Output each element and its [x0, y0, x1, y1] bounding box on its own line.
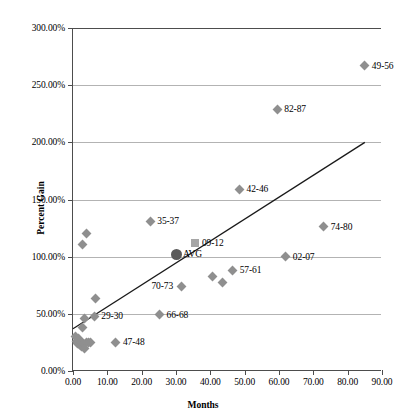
gridline	[73, 142, 381, 143]
data-point-label: AVG	[183, 249, 202, 259]
y-tick-label: 300.00%	[32, 23, 65, 33]
y-tick-label: 0.00%	[41, 366, 65, 376]
y-tick-label: 50.00%	[36, 309, 65, 319]
scatter-chart: Percent Gain Months 0.00%50.00%100.00%15…	[0, 0, 406, 416]
data-point-label: 02-07	[293, 252, 315, 262]
data-point-label: 47-48	[123, 337, 145, 347]
x-tick-label: 80.00	[337, 377, 358, 387]
data-point-marker	[91, 294, 101, 304]
data-point-marker	[171, 249, 182, 260]
x-tick-label: 90.00	[372, 377, 393, 387]
x-tick-label: 40.00	[200, 377, 221, 387]
data-point-marker	[111, 337, 121, 347]
data-point-marker	[81, 229, 91, 239]
data-point-label: 74-80	[331, 222, 353, 232]
data-point-marker	[145, 216, 155, 226]
data-point-label: 42-46	[247, 184, 269, 194]
x-tick-mark	[382, 370, 383, 375]
x-tick-mark	[279, 370, 280, 375]
y-tick-label: 100.00%	[32, 252, 65, 262]
y-tick-label: 250.00%	[32, 80, 65, 90]
x-tick-mark	[176, 370, 177, 375]
data-point-marker	[217, 278, 227, 288]
x-tick-label: 20.00	[131, 377, 152, 387]
x-tick-mark	[142, 370, 143, 375]
gridline	[73, 28, 381, 29]
y-tick-label: 200.00%	[32, 137, 65, 147]
x-tick-mark	[313, 370, 314, 375]
gridline	[73, 257, 381, 258]
x-tick-label: 30.00	[166, 377, 187, 387]
y-tick-mark	[68, 85, 73, 86]
data-point-marker	[272, 104, 282, 114]
data-point-label: 70-73	[151, 281, 173, 291]
data-point-marker	[89, 311, 99, 321]
data-point-label: 09-12	[202, 238, 224, 248]
data-point-marker	[228, 265, 238, 275]
data-point-marker	[191, 239, 199, 247]
gridline	[73, 200, 381, 201]
data-point-label: 57-61	[240, 265, 262, 275]
x-tick-label: 0.00	[65, 377, 81, 387]
y-tick-label: 150.00%	[32, 195, 65, 205]
y-tick-mark	[68, 28, 73, 29]
y-tick-mark	[68, 257, 73, 258]
x-tick-mark	[107, 370, 108, 375]
gridline	[73, 85, 381, 86]
data-point-label: 29-30	[101, 311, 123, 321]
x-tick-mark	[73, 370, 74, 375]
data-point-marker	[155, 310, 165, 320]
data-point-marker	[360, 61, 370, 71]
data-point-label: 66-68	[167, 310, 189, 320]
x-tick-label: 60.00	[269, 377, 290, 387]
x-tick-mark	[245, 370, 246, 375]
y-tick-mark	[68, 200, 73, 201]
data-point-marker	[281, 252, 291, 262]
data-point-marker	[78, 239, 88, 249]
y-tick-mark	[68, 314, 73, 315]
data-point-label: 82-87	[284, 104, 306, 114]
x-tick-mark	[348, 370, 349, 375]
data-point-marker	[78, 323, 88, 333]
x-tick-label: 10.00	[97, 377, 118, 387]
data-point-marker	[79, 313, 89, 323]
data-point-label: 35-37	[157, 216, 179, 226]
x-axis-title: Months	[0, 400, 406, 410]
x-tick-label: 70.00	[303, 377, 324, 387]
y-tick-mark	[68, 142, 73, 143]
plot-area: 0.00%50.00%100.00%150.00%200.00%250.00%3…	[72, 28, 381, 371]
x-tick-mark	[210, 370, 211, 375]
data-point-marker	[176, 281, 186, 291]
y-axis-title: Percent Gain	[36, 181, 46, 234]
x-tick-label: 50.00	[234, 377, 255, 387]
data-point-marker	[235, 184, 245, 194]
data-point-label: 49-56	[372, 61, 394, 71]
data-point-marker	[207, 271, 217, 281]
data-point-marker	[319, 222, 329, 232]
